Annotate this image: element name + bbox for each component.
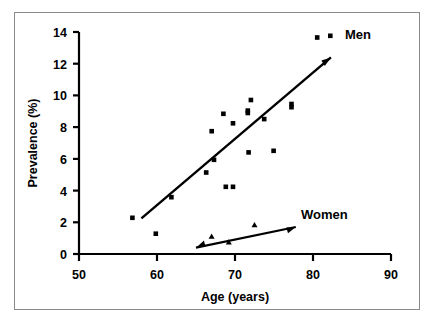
- data-point: [154, 231, 159, 236]
- legend-marker-men: [328, 34, 333, 39]
- y-tick-label-0: 0: [60, 248, 67, 262]
- data-point: [231, 185, 236, 190]
- y-tick-label-8: 8: [60, 121, 67, 135]
- y-tick-label-14: 14: [53, 26, 67, 40]
- x-tick-label-70: 70: [228, 268, 242, 282]
- y-tick-label-12: 12: [53, 58, 67, 72]
- data-point: [262, 117, 267, 122]
- data-point: [169, 195, 174, 200]
- data-point: [130, 216, 135, 221]
- series-label-men: Men: [345, 27, 371, 42]
- series-label-women: Women: [301, 207, 348, 222]
- data-point: [249, 98, 254, 103]
- scatter-plot: 14 12 10 8 6 4 2 0 50 60 70 80 90 Age (: [15, 13, 419, 309]
- data-point: [289, 105, 294, 110]
- figure-border: 14 12 10 8 6 4 2 0 50 60 70 80 90 Age (: [14, 12, 420, 310]
- y-tick-label-10: 10: [53, 89, 67, 103]
- data-point: [252, 222, 258, 227]
- data-point: [231, 121, 236, 126]
- data-point: [209, 234, 215, 239]
- data-point: [246, 108, 251, 113]
- x-axis-title: Age (years): [201, 290, 269, 304]
- y-axis-title: Prevalence (%): [26, 99, 40, 188]
- data-point: [221, 112, 226, 117]
- x-tick-label-90: 90: [384, 268, 398, 282]
- x-tick-label-80: 80: [306, 268, 320, 282]
- y-tick-label-2: 2: [60, 216, 67, 230]
- men-trend-line: [141, 57, 331, 218]
- men-data-points: [130, 35, 319, 236]
- x-tick-label-60: 60: [150, 268, 164, 282]
- data-point: [315, 35, 320, 40]
- data-point: [209, 129, 214, 134]
- data-point: [204, 170, 209, 175]
- data-point: [246, 150, 251, 155]
- x-tick-label-50: 50: [72, 268, 86, 282]
- data-point: [224, 185, 229, 190]
- y-tick-label-4: 4: [60, 185, 67, 199]
- y-tick-label-6: 6: [60, 153, 67, 167]
- data-point: [271, 149, 276, 154]
- chart-page: 14 12 10 8 6 4 2 0 50 60 70 80 90 Age (: [0, 0, 434, 333]
- data-point: [212, 158, 217, 163]
